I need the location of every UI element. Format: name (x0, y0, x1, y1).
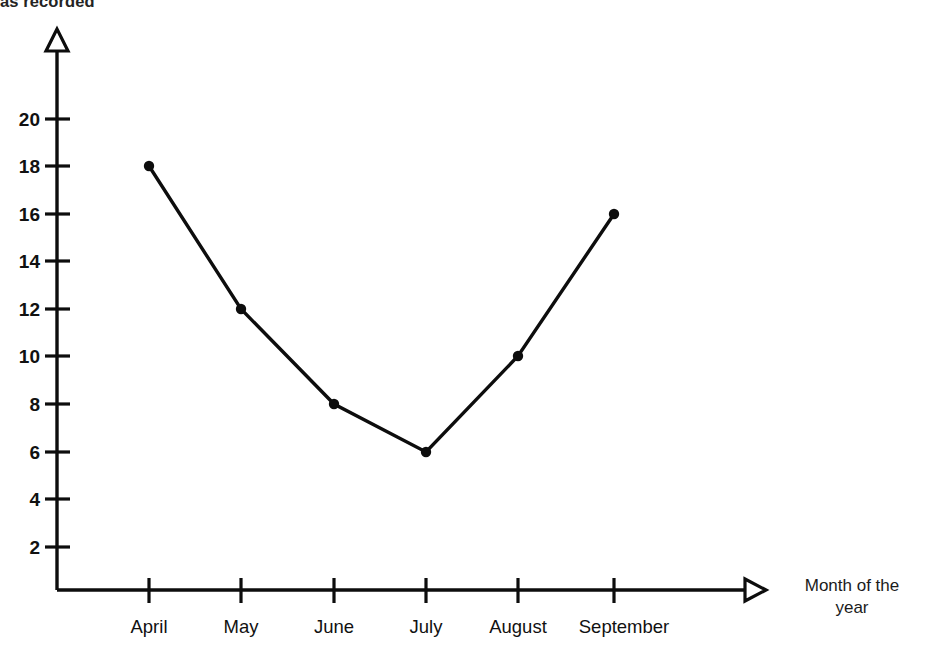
line-chart-figure: as recorded 20 18 16 14 12 10 (0, 0, 925, 651)
x-tick-label-june: June (314, 616, 354, 637)
x-axis-title: Month of the year (805, 576, 900, 617)
x-tick-label-august: August (489, 616, 547, 637)
data-point-may (236, 304, 246, 314)
data-series-line (149, 166, 614, 452)
data-point-september (609, 209, 619, 219)
x-tick-label-july: July (410, 616, 444, 637)
x-axis-title-line2: year (835, 598, 868, 617)
chart-plot-area: 20 18 16 14 12 10 8 6 4 2 April May June… (0, 0, 925, 651)
data-point-july (421, 447, 431, 457)
x-axis-arrowhead-icon (745, 579, 766, 601)
x-tick-label-april: April (130, 616, 167, 637)
x-tick-label-september: September (579, 616, 670, 637)
y-tick-label-8: 8 (29, 394, 40, 415)
data-point-april (144, 161, 154, 171)
y-tick-label-14: 14 (19, 251, 41, 272)
data-point-june (329, 399, 339, 409)
y-tick-label-12: 12 (19, 299, 40, 320)
x-axis-tick-labels: April May June July August September (130, 616, 669, 637)
x-axis-title-line1: Month of the (805, 576, 900, 595)
y-tick-label-16: 16 (19, 204, 40, 225)
y-tick-label-10: 10 (19, 346, 40, 367)
y-tick-label-20: 20 (19, 109, 40, 130)
y-tick-label-2: 2 (29, 537, 40, 558)
y-axis-arrowhead-icon (46, 29, 68, 51)
x-tick-label-may: May (224, 616, 260, 637)
y-tick-label-4: 4 (29, 489, 40, 510)
data-point-august (513, 351, 523, 361)
y-tick-label-6: 6 (29, 442, 40, 463)
y-tick-label-18: 18 (19, 156, 40, 177)
y-axis-tick-labels: 20 18 16 14 12 10 8 6 4 2 (19, 109, 41, 558)
